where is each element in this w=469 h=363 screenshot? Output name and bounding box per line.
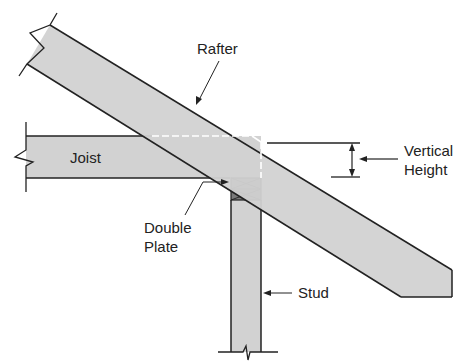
rafter-leader-arrow-icon bbox=[196, 96, 202, 105]
double-plate-label-line2: Plate bbox=[144, 238, 178, 255]
vertical-height-label-line2: Height bbox=[404, 161, 448, 178]
rafter-label: Rafter bbox=[197, 40, 238, 57]
leader-arrow-icon bbox=[359, 156, 367, 162]
dimension-arrow-down-icon bbox=[349, 169, 355, 177]
rafter-leader bbox=[199, 61, 219, 100]
stud-leader-arrow-icon bbox=[263, 290, 271, 296]
dimension-arrow-up-icon bbox=[349, 143, 355, 151]
double-plate-label-line1: Double bbox=[144, 219, 192, 236]
rafter-joist-diagram: Rafter Joist Vertical Height Double Plat… bbox=[0, 0, 469, 363]
double-plate-leader bbox=[185, 182, 222, 215]
joist-label: Joist bbox=[70, 149, 102, 166]
stud-label: Stud bbox=[298, 284, 329, 301]
stud bbox=[218, 200, 278, 360]
vertical-height-label-line1: Vertical bbox=[404, 142, 453, 159]
